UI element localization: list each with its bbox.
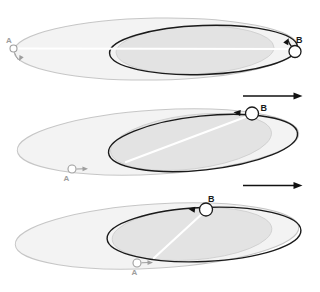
orbit-diagram-panel-2: A B [15, 101, 300, 182]
particle-b-marker [246, 107, 259, 120]
particle-a-label: A [6, 36, 12, 45]
drift-direction-arrow-2 [243, 182, 303, 189]
particle-a-marker [68, 165, 76, 173]
orbit-diagram-panel-1: A B [6, 16, 303, 83]
particle-a-label: A [64, 174, 70, 183]
drift-direction-arrow-1 [243, 93, 303, 100]
apsidal-line [18, 49, 290, 50]
particle-a-marker [10, 45, 17, 52]
particle-b-label: B [208, 194, 215, 204]
particle-a-marker [133, 259, 141, 267]
particle-b-label: B [296, 35, 303, 45]
orbit-precession-figure: A B A B A [0, 0, 320, 292]
particle-a-label: A [132, 268, 138, 277]
right-arrow-icon [294, 93, 303, 100]
particle-b-label: B [261, 103, 268, 113]
figure-canvas: A B A B A [0, 0, 320, 292]
orbit-diagram-panel-3: A B [13, 194, 302, 277]
right-arrow-icon [294, 182, 303, 189]
particle-b-marker [200, 203, 213, 216]
particle-b-marker [289, 46, 301, 58]
